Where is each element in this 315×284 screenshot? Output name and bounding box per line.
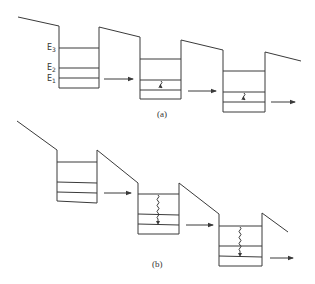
wavy-arrow-a2 [160, 81, 162, 87]
well-a1-levels [59, 48, 99, 78]
caption-b: (b) [152, 259, 163, 269]
label-e2: E2 [47, 63, 56, 73]
label-e1: E1 [47, 74, 56, 84]
wavy-arrow-a3 [243, 93, 245, 99]
wavy-arrow-b3 [239, 227, 241, 255]
band-diagram: E3 E2 E1 (a) (b) [0, 0, 315, 284]
level-labels: E3 E2 E1 [47, 43, 56, 84]
caption-a: (a) [157, 109, 167, 119]
label-e3: E3 [47, 43, 56, 53]
wavy-arrow-b2 [157, 195, 159, 223]
band-edge-a [18, 17, 301, 112]
panel-b [17, 121, 293, 266]
panel-a [18, 17, 301, 112]
well-b1-levels [57, 162, 97, 193]
well-a3-levels [223, 71, 265, 102]
